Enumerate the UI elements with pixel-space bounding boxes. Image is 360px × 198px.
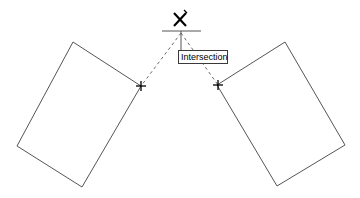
cad-drawing-canvas[interactable]: Intersection [0,0,360,198]
cad-vector-layer [0,0,360,198]
snap-tooltip: Intersection [178,50,228,64]
rectangle-left[interactable] [17,42,141,187]
intersection-snap-marker[interactable] [174,10,187,26]
tracking-line-left [141,33,181,86]
rectangle-right[interactable] [217,42,345,186]
endpoint-marker-right[interactable] [213,80,223,90]
snap-tooltip-label: Intersection [181,52,228,62]
endpoint-marker-left[interactable] [136,81,146,91]
